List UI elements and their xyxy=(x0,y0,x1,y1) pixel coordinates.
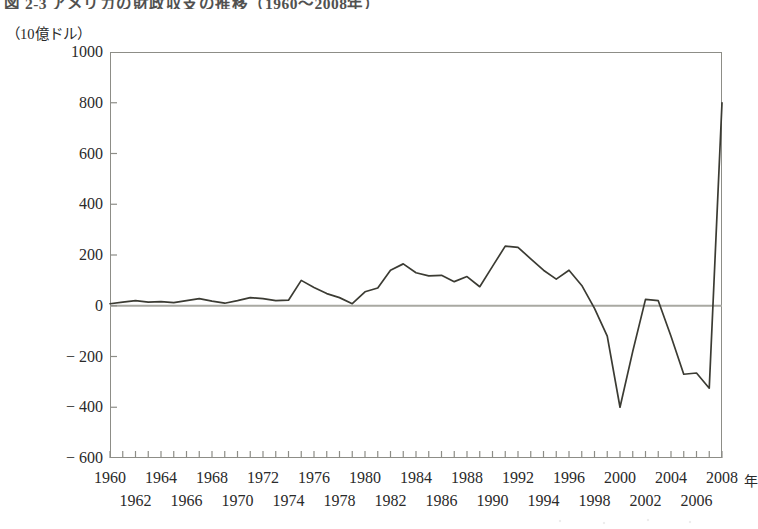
x-tick-label: 2006 xyxy=(681,492,713,509)
x-tick-label: 1992 xyxy=(502,469,534,486)
x-tick-label: 1996 xyxy=(553,469,585,486)
y-tick-label: − 400 xyxy=(11,399,103,415)
plot-svg xyxy=(110,52,722,458)
x-tick-label: 2004 xyxy=(655,469,687,486)
x-tick-label: 1970 xyxy=(222,492,254,509)
x-tick-label: 1962 xyxy=(120,492,152,509)
y-tick-label: 1000 xyxy=(11,44,103,60)
chart-title: 図 2-3 アメリカの財政収支の推移（1960〜2008年） xyxy=(4,0,744,9)
x-tick-label: 1960 xyxy=(94,469,126,486)
x-tick-label: 1968 xyxy=(196,469,228,486)
y-tick-label: 800 xyxy=(11,95,103,111)
x-tick-label: 1978 xyxy=(324,492,356,509)
x-tick-label: 2000 xyxy=(604,469,636,486)
x-tick-label: 1986 xyxy=(426,492,458,509)
x-tick-label: 1974 xyxy=(273,492,305,509)
x-tick-label: 1972 xyxy=(247,469,279,486)
x-tick-label: 1990 xyxy=(477,492,509,509)
x-tick-label: 2002 xyxy=(630,492,662,509)
x-tick-marks-group xyxy=(110,451,722,458)
y-tick-label: 200 xyxy=(11,247,103,263)
y-tick-label: − 200 xyxy=(11,349,103,365)
x-tick-label: 1994 xyxy=(528,492,560,509)
y-tick-label: 600 xyxy=(11,146,103,162)
x-tick-label: 1980 xyxy=(349,469,381,486)
x-tick-label: 1964 xyxy=(145,469,177,486)
x-tick-label: 1984 xyxy=(400,469,432,486)
budget-balance-line xyxy=(110,103,722,408)
y-tick-label: − 600 xyxy=(11,450,103,466)
x-axis-unit-label: 年 xyxy=(744,470,758,490)
y-tick-marks-group xyxy=(110,103,117,408)
x-tick-label: 2008 xyxy=(706,469,738,486)
page-speckle xyxy=(0,516,750,528)
x-tick-label: 1988 xyxy=(451,469,483,486)
x-tick-label: 1966 xyxy=(171,492,203,509)
x-tick-label: 1998 xyxy=(579,492,611,509)
x-tick-label: 1982 xyxy=(375,492,407,509)
x-tick-label: 1976 xyxy=(298,469,330,486)
y-axis-tick-labels: 10008006004002000− 200− 400− 600 xyxy=(0,0,103,529)
y-tick-label: 400 xyxy=(11,196,103,212)
y-tick-label: 0 xyxy=(11,298,103,314)
